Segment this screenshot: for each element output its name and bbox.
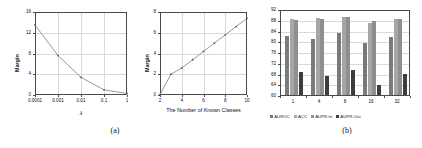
bar <box>320 19 324 95</box>
x-tick-mark <box>410 96 411 98</box>
x-tick-mark <box>306 96 307 98</box>
bar <box>342 17 346 95</box>
y-tick-mark <box>278 32 280 33</box>
bar <box>285 36 289 95</box>
x-tick-label: 32 <box>394 100 399 105</box>
legend-swatch <box>270 115 273 118</box>
bar <box>290 19 294 95</box>
y-tick-label: 60 <box>262 94 276 99</box>
x-tick-label: 1 <box>292 100 295 105</box>
legend-label: AUPR-Out <box>340 114 360 119</box>
legend-item: AUPR-Out <box>336 114 360 119</box>
bar <box>351 70 355 95</box>
subfigure-caption: (a) <box>105 126 125 135</box>
legend-swatch <box>336 115 339 118</box>
bar <box>372 21 376 95</box>
plot-area-b <box>280 10 410 96</box>
x-tick-mark <box>358 96 359 98</box>
y-tick-mark <box>278 10 280 11</box>
legend-item: AUPR-In <box>311 114 332 119</box>
x-tick-label: 16 <box>368 100 373 105</box>
legend-b: AUROCACCAUPR-InAUPR-Out <box>270 114 361 119</box>
bar <box>346 17 350 95</box>
y-tick-label: 76 <box>262 51 276 56</box>
y-tick-label: 80 <box>262 40 276 45</box>
y-tick-label: 64 <box>262 83 276 88</box>
legend-label: ACC <box>298 114 307 119</box>
y-tick-mark <box>278 53 280 54</box>
legend-label: AUROC <box>274 114 290 119</box>
x-tick-label: 4 <box>318 100 321 105</box>
bar <box>299 72 303 95</box>
y-tick-label: 84 <box>262 29 276 34</box>
y-tick-mark <box>278 42 280 43</box>
subfigure-caption: (b) <box>337 126 357 135</box>
y-tick-mark <box>278 64 280 65</box>
bar <box>311 39 315 95</box>
figure-container: Margin λ 04812160.00010.0010.010.11 Marg… <box>0 0 422 148</box>
legend-swatch <box>311 115 314 118</box>
x-tick-mark <box>280 96 281 98</box>
legend-swatch <box>294 115 297 118</box>
legend-item: AUROC <box>270 114 290 119</box>
x-tick-mark <box>332 96 333 98</box>
bar <box>403 74 407 95</box>
chart-panel-middle: Margin The Number of Known Classes 02468… <box>140 0 270 148</box>
bar <box>325 76 329 95</box>
bar <box>316 18 320 95</box>
bar <box>394 19 398 95</box>
bar <box>368 23 372 95</box>
y-tick-label: 92 <box>262 8 276 13</box>
legend-label: AUPR-In <box>315 114 332 119</box>
bar <box>337 33 341 95</box>
bar <box>294 20 298 95</box>
y-tick-label: 68 <box>262 72 276 77</box>
x-tick-mark <box>384 96 385 98</box>
bar <box>398 19 402 95</box>
y-tick-label: 88 <box>262 18 276 23</box>
legend-item: ACC <box>294 114 307 119</box>
y-tick-mark <box>278 75 280 76</box>
line-series-middle <box>140 0 270 148</box>
x-tick-label: 8 <box>344 100 347 105</box>
y-tick-label: 72 <box>262 61 276 66</box>
y-tick-mark <box>278 85 280 86</box>
bar <box>363 43 367 95</box>
bar <box>389 37 393 95</box>
y-tick-mark <box>278 21 280 22</box>
bar <box>377 85 381 95</box>
